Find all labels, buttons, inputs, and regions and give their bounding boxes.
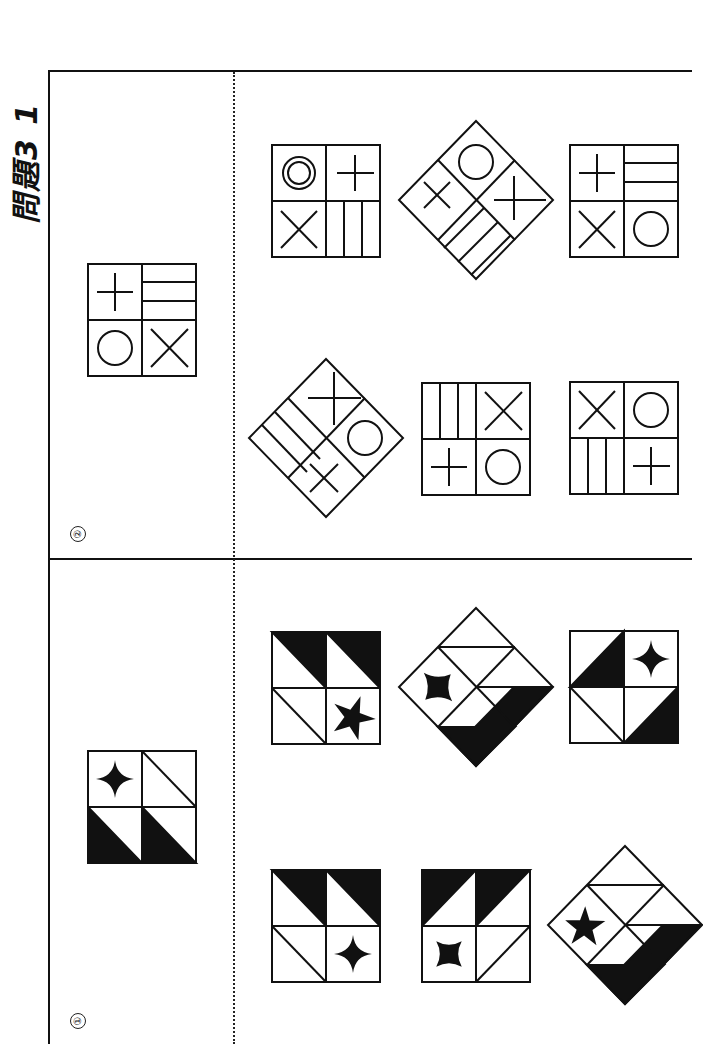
frame-top-border <box>48 70 692 72</box>
problem-1-choice-3[interactable] <box>569 630 679 744</box>
problem-1-choice-2[interactable] <box>398 607 554 767</box>
problem-2-choice-5[interactable] <box>421 382 531 496</box>
problem-2-choice-4[interactable] <box>248 358 404 518</box>
problem-2-reference-tile <box>87 263 197 377</box>
problem-1-reference-tile <box>87 750 197 864</box>
problem-1-choice-4[interactable] <box>271 869 381 983</box>
page-title: 問題3 1 <box>4 78 44 248</box>
problem-2-choice-6[interactable] <box>569 381 679 495</box>
problem-number-2: ② <box>70 526 86 542</box>
problem-1-choice-5[interactable] <box>421 869 531 983</box>
problem-1-choice-1[interactable] <box>271 631 381 745</box>
problem-2-choice-3[interactable] <box>569 144 679 258</box>
problem-1-choice-6[interactable] <box>547 845 703 1005</box>
problem-number-1: ① <box>70 1013 86 1029</box>
frame-left-border <box>48 70 50 1044</box>
problem-2-choice-1[interactable] <box>271 144 381 258</box>
problem-2-choice-2[interactable] <box>398 120 554 280</box>
dotted-divider <box>233 72 235 1044</box>
problem-divider <box>48 558 692 560</box>
